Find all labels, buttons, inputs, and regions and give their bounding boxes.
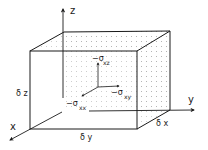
svg-text:xy: xy [124, 93, 132, 101]
y-axis-label: y [188, 94, 194, 105]
svg-text:xx: xx [79, 104, 87, 111]
x-axis-label: x [10, 121, 16, 132]
stress-element-diagram: z y x δ z δ y δ x −σ xz −σ xy −σ xx [0, 0, 208, 150]
svg-text:−σ: −σ [111, 88, 123, 97]
svg-text:−σ: −σ [66, 99, 78, 108]
z-axis-label: z [70, 5, 75, 16]
dy-label: δ y [80, 133, 92, 142]
svg-text:xz: xz [103, 59, 110, 66]
svg-text:−σ: −σ [92, 54, 104, 63]
dz-label: δ z [16, 89, 28, 98]
dx-label: δ x [156, 119, 168, 128]
